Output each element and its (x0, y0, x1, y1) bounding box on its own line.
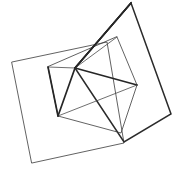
canvas-background (0, 0, 173, 180)
polygon-drawing-canvas (0, 0, 173, 180)
figure-container (0, 0, 173, 180)
